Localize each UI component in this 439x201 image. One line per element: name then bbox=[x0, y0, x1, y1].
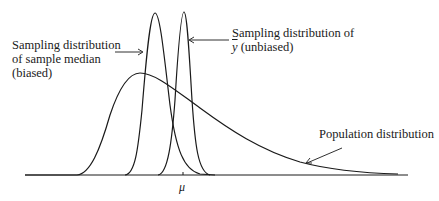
ybar-label: Sampling distribution of y (unbiased) bbox=[232, 26, 354, 54]
median-label: Sampling distribution of sample median (… bbox=[12, 38, 121, 80]
population-label: Population distribution bbox=[319, 127, 434, 141]
ybar-label-line1: Sampling distribution of bbox=[232, 26, 354, 40]
ybar-curve bbox=[158, 12, 210, 175]
median-label-line1: Sampling distribution bbox=[12, 38, 121, 52]
population-curve bbox=[25, 73, 398, 175]
population-arrow bbox=[307, 148, 342, 163]
mu-label: μ bbox=[179, 180, 185, 194]
distribution-diagram bbox=[0, 0, 439, 201]
median-label-line2: of sample median bbox=[12, 52, 121, 66]
median-label-line3: (biased) bbox=[12, 66, 121, 80]
ybar-label-rest: (unbiased) bbox=[238, 40, 294, 54]
